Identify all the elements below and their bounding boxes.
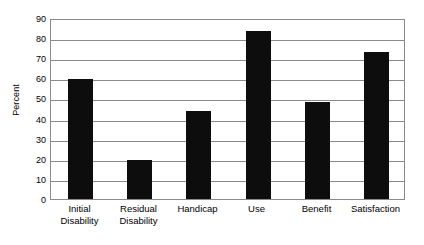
bar-series [51, 20, 404, 199]
x-axis-category-label-line1: Handicap [168, 203, 227, 215]
x-axis-category-label-line2: Disability [50, 215, 109, 227]
x-axis-category-label: InitialDisability [50, 203, 109, 227]
x-axis-category-label-line1: Satisfaction [346, 203, 405, 215]
y-axis-tick-label: 30 [24, 135, 46, 144]
x-axis-category-label-line1: Benefit [287, 203, 346, 215]
plot-area [50, 19, 405, 200]
x-axis-category-label: Satisfaction [346, 203, 405, 215]
bar [246, 31, 271, 199]
y-axis-title: Percent [8, 0, 24, 200]
x-axis-category-label: Handicap [168, 203, 227, 215]
y-axis-tick-label: 10 [24, 175, 46, 184]
x-axis-category-label-line2: Disability [109, 215, 168, 227]
y-axis-tick-label: 20 [24, 155, 46, 164]
x-axis-category-label-line1: Residual [109, 203, 168, 215]
y-axis-title-label: Percent [11, 84, 21, 116]
y-axis-tick-label: 90 [24, 15, 46, 24]
bar [364, 52, 389, 199]
bar [68, 79, 93, 199]
y-axis-tick-label: 40 [24, 115, 46, 124]
y-axis-tick-label: 60 [24, 75, 46, 84]
bar [127, 160, 152, 199]
x-axis-category-label-line1: Initial [50, 203, 109, 215]
x-axis-category-label: Benefit [287, 203, 346, 215]
y-axis-tick-label: 50 [24, 95, 46, 104]
y-axis-tick-label: 0 [24, 196, 46, 205]
y-axis-tick-label: 70 [24, 55, 46, 64]
x-axis-category-labels: InitialDisabilityResidualDisabilityHandi… [50, 203, 405, 243]
bar [186, 111, 211, 199]
bar-chart-figure: Percent 0102030405060708090 InitialDisab… [0, 0, 424, 245]
x-axis-category-label: ResidualDisability [109, 203, 168, 227]
y-axis-tick-label: 80 [24, 35, 46, 44]
x-axis-category-label-line1: Use [227, 203, 286, 215]
y-axis-tick-labels: 0102030405060708090 [24, 19, 46, 200]
bar [305, 102, 330, 199]
x-axis-category-label: Use [227, 203, 286, 215]
